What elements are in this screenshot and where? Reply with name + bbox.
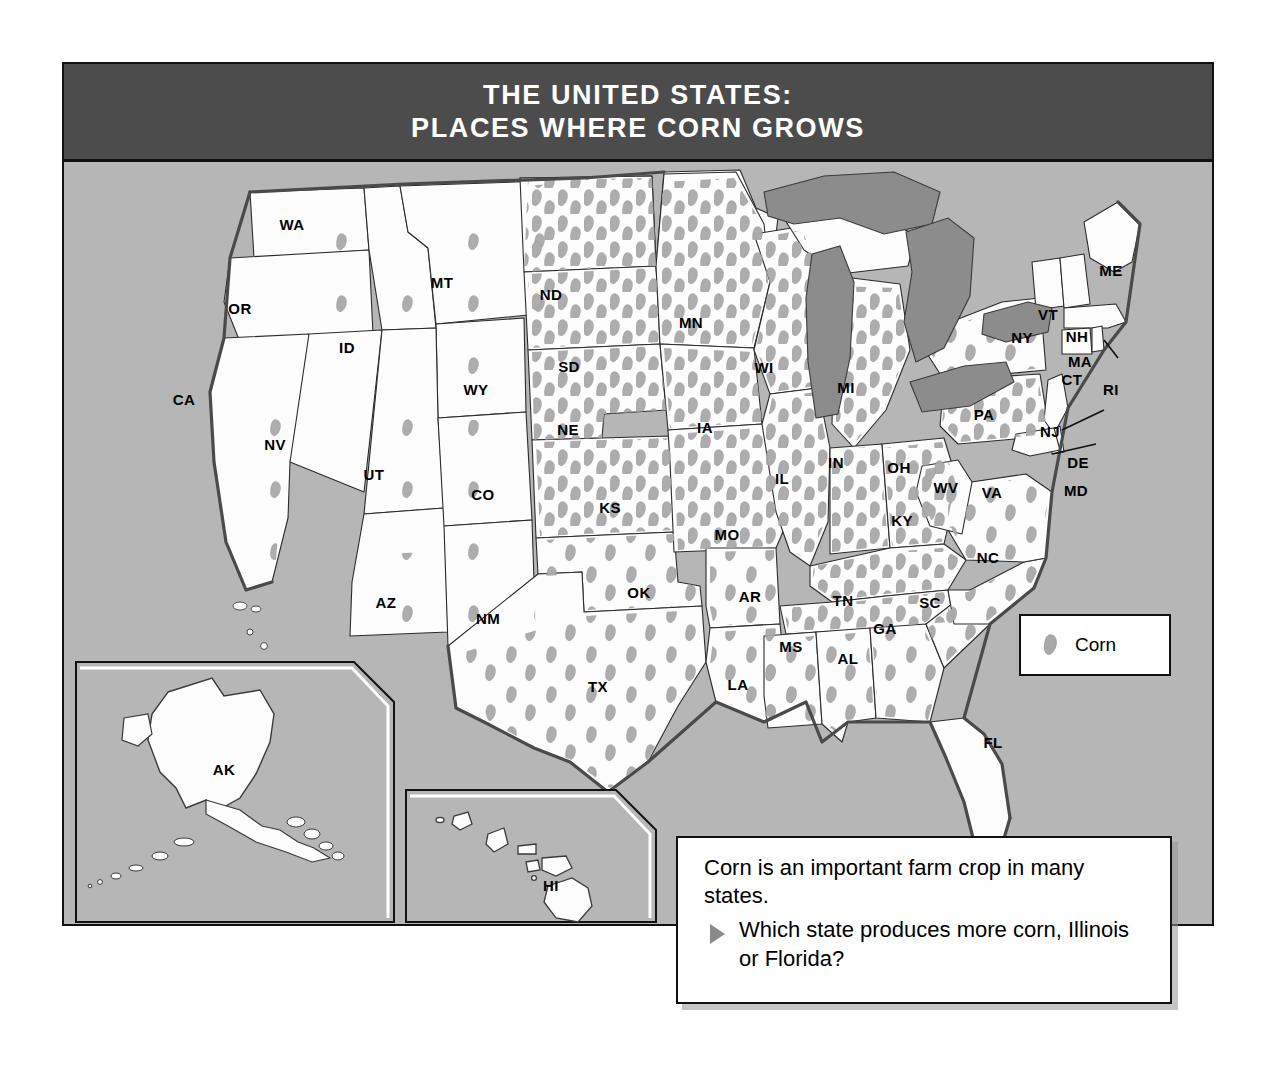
- state-CT: [1062, 328, 1092, 354]
- question-intro-text: Corn is an important farm crop in many s…: [704, 854, 1148, 910]
- question-row: Which state produces more corn, Illinois…: [704, 916, 1148, 973]
- state-NH: [1060, 254, 1090, 308]
- island-lanai: [526, 860, 540, 872]
- us-map-svg: [64, 162, 1212, 925]
- hawaii-inset-frame: [406, 790, 656, 922]
- map-title-line-1: THE UNITED STATES:: [483, 79, 793, 112]
- map-title-banner: THE UNITED STATES: PLACES WHERE CORN GRO…: [64, 64, 1212, 162]
- question-prompt-text: Which state produces more corn, Illinois…: [739, 916, 1148, 973]
- map-canvas: WAORCANVIDMTWYUTAZCONMNDSDNEKSOKTXMNIAMO…: [64, 162, 1212, 925]
- state-MA: [1064, 304, 1126, 328]
- alaska-inset-group: [76, 662, 394, 922]
- corn-symbol-icon: [1043, 634, 1059, 656]
- map-title-line-2: PLACES WHERE CORN GROWS: [411, 112, 865, 145]
- map-legend: Corn: [1019, 614, 1171, 676]
- state-VT: [1032, 258, 1064, 310]
- island-kahoolawe: [532, 876, 537, 881]
- map-frame: THE UNITED STATES: PLACES WHERE CORN GRO…: [62, 62, 1214, 926]
- question-box: Corn is an important farm crop in many s…: [676, 836, 1172, 1004]
- triangle-right-icon: [710, 924, 725, 944]
- island-niihau: [436, 817, 444, 822]
- contiguous-states-group: [76, 170, 1140, 922]
- state-ME: [1084, 202, 1140, 272]
- hawaii-inset-group: [406, 790, 656, 922]
- state-RI: [1092, 326, 1104, 352]
- map-page: THE UNITED STATES: PLACES WHERE CORN GRO…: [0, 0, 1277, 1079]
- island-molokai: [518, 844, 536, 854]
- legend-label: Corn: [1075, 634, 1116, 656]
- offshore-islands: [233, 602, 267, 649]
